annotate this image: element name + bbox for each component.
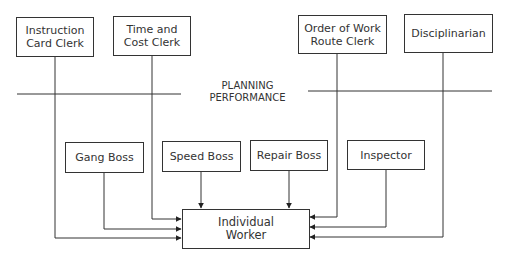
gang-boss-box: Gang Boss — [65, 142, 144, 173]
repair-boss-box: Repair Boss — [250, 140, 328, 171]
inspector-box: Inspector — [347, 140, 425, 170]
order-of-work-route-clerk-line1: Order of Work — [304, 22, 381, 35]
instruction-card-clerk-line1: Instruction — [26, 24, 85, 37]
disciplinarian-label: Disciplinarian — [411, 27, 485, 40]
edge-time-cost-clerk — [152, 55, 181, 219]
individual-worker-line2: Worker — [226, 229, 267, 242]
performance-label: PERFORMANCE — [190, 92, 305, 104]
instruction-card-clerk-line2: Card Clerk — [26, 37, 84, 50]
edge-gang-boss — [104, 172, 181, 229]
edge-order-of-work-route-clerk — [310, 53, 337, 217]
speed-boss-label: Speed Boss — [170, 150, 234, 163]
speed-boss-box: Speed Boss — [162, 141, 241, 172]
edge-inspector — [310, 169, 386, 227]
planning-performance-label: PLANNING PERFORMANCE — [190, 80, 305, 104]
repair-boss-label: Repair Boss — [257, 149, 321, 162]
order-of-work-route-clerk-box: Order of Work Route Clerk — [298, 15, 387, 54]
time-and-cost-clerk-line1: Time and — [126, 23, 177, 36]
planning-label: PLANNING — [190, 80, 305, 92]
disciplinarian-box: Disciplinarian — [404, 14, 493, 53]
order-of-work-route-clerk-line2: Route Clerk — [311, 35, 375, 48]
time-and-cost-clerk-line2: Cost Clerk — [124, 36, 180, 49]
individual-worker-box: Individual Worker — [182, 209, 310, 249]
inspector-label: Inspector — [360, 149, 411, 162]
time-and-cost-clerk-box: Time and Cost Clerk — [113, 16, 191, 56]
gang-boss-label: Gang Boss — [75, 151, 133, 164]
instruction-card-clerk-box: Instruction Card Clerk — [16, 17, 94, 57]
